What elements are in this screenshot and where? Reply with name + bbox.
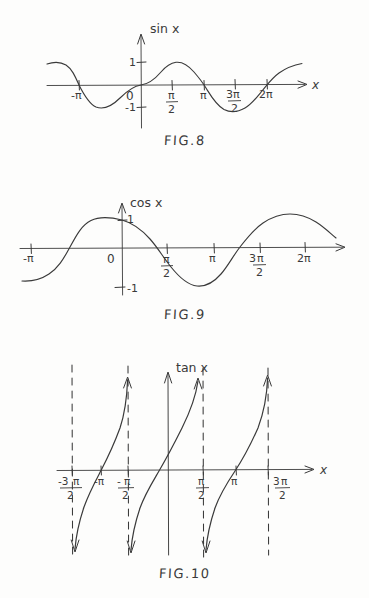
fig8-ytick-label-neg1: -1: [125, 101, 136, 114]
tan-branch-2: [131, 381, 198, 550]
sin-x-plot: sin x x 0 1 -1 -π π 2 π 3 π 2 2π: [0, 0, 369, 175]
figure-cos-x: cos x 0 1 -1 -π π 2 π 3 π 2 2π: [0, 175, 369, 350]
y-axis-line: [122, 205, 123, 295]
fig9-xtick-label-pi: π: [209, 252, 216, 265]
x-axis-line: [57, 469, 312, 470]
figure-9-caption: FIG.9: [0, 307, 369, 322]
fig8-xtick-label-3pi-over-2-den: 2: [231, 102, 238, 115]
figure-tan-x: tan x x -3 π 2 -π - π 2 π 2 π 3 π 2: [0, 350, 369, 598]
cos-x-plot: cos x 0 1 -1 -π π 2 π 3 π 2 2π: [0, 175, 369, 350]
fig8-xtick-label-2pi: 2π: [259, 88, 273, 101]
tan-branch-3: [206, 378, 268, 550]
fig10-xtick-label-neg-pi-over-2-sign: -: [117, 475, 121, 487]
fig10-x-axis-label: x: [319, 463, 328, 477]
y-axis-line: [168, 374, 169, 555]
fig8-y-axis-label: sin x: [150, 21, 179, 36]
fig8-xtick-label-3pi-over-2-num: π: [233, 88, 240, 101]
figure-10-caption: FIG.10: [0, 566, 369, 581]
fig8-xtick-label-pi-over-2-num: π: [168, 89, 175, 102]
fig8-ytick-label-1: 1: [129, 56, 136, 69]
asymptote-neg-pi-over-2: [128, 366, 129, 555]
fig10-xtick-label-neg-pi: -π: [94, 475, 105, 487]
cosine-curve: [22, 214, 336, 286]
fig9-xtick-label-3pi-over-2-den: 2: [256, 266, 263, 279]
asymptote-neg-3pi-over-2: [72, 365, 73, 555]
asymptote-3pi-over-2: [268, 368, 269, 555]
y-tick-pos1: [137, 62, 146, 63]
fig10-xtick-label-neg-3pi-over-2-num: π: [73, 475, 80, 487]
fig9-ytick-label-neg1: -1: [127, 282, 138, 295]
tan-branch-1: [75, 380, 128, 549]
tan-x-plot: tan x x -3 π 2 -π - π 2 π 2 π 3 π 2: [0, 350, 369, 598]
fig8-xtick-label-neg-pi: -π: [71, 89, 82, 102]
fig9-ytick-label-1: 1: [127, 213, 134, 226]
fig10-xtick-label-pi: π: [231, 475, 238, 487]
fig10-xtick-label-3pi-over-2-den: 2: [279, 489, 286, 501]
figure-8-caption-text: FIG.8: [163, 133, 206, 148]
fig9-xtick-label-neg-pi: -π: [23, 252, 34, 265]
fig9-y-axis-label: cos x: [130, 195, 162, 210]
x-axis-line: [20, 247, 343, 248]
fig8-xtick-label-pi-over-2-den: 2: [168, 103, 175, 116]
y-tick-neg1: [137, 107, 146, 108]
fig10-xtick-label-neg-3pi-over-2-int: -3: [58, 475, 68, 487]
y-tick-neg1: [115, 287, 125, 288]
asymptote-pi-over-2: [203, 368, 204, 557]
fig10-xtick-label-neg-3pi-over-2-den: 2: [67, 489, 74, 501]
fig9-xtick-label-3pi-over-2-num: π: [257, 252, 264, 265]
fig9-xtick-label-pi-over-2-num: π: [163, 253, 170, 266]
fig9-xtick-label-2pi: 2π: [297, 252, 311, 265]
fig8-xtick-label-pi: π: [200, 89, 207, 102]
fig10-xtick-label-neg-pi-over-2-den: 2: [122, 489, 129, 501]
fig10-xtick-label-3pi-over-2-int: 3: [273, 475, 280, 487]
figure-8-caption: FIG.8: [0, 133, 369, 148]
fig9-xtick-label-pi-over-2-den: 2: [163, 267, 170, 280]
figure-9-caption-text: FIG.9: [163, 307, 206, 322]
figure-10-caption-text: FIG.10: [158, 566, 210, 581]
fig8-xtick-label-3pi-over-2-int: 3: [226, 88, 233, 101]
figure-sin-x: sin x x 0 1 -1 -π π 2 π 3 π 2 2π: [0, 0, 369, 175]
fig10-xtick-label-pi-over-2-den: 2: [198, 489, 205, 501]
fig10-xtick-label-pi-over-2-num: π: [198, 475, 205, 487]
y-axis-line: [141, 36, 142, 128]
fig9-xtick-label-3pi-over-2-int: 3: [249, 252, 256, 265]
fig8-x-axis-label: x: [311, 78, 320, 92]
fig10-xtick-label-3pi-over-2-num: π: [281, 475, 288, 487]
fig10-xtick-label-neg-pi-over-2-num: π: [124, 475, 131, 487]
fig9-origin-label: 0: [107, 252, 115, 266]
fig10-y-axis-label: tan x: [176, 360, 208, 375]
